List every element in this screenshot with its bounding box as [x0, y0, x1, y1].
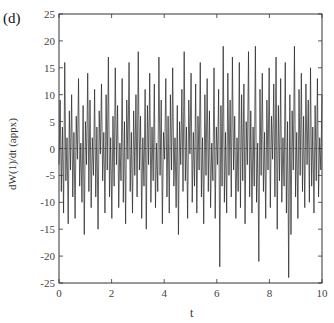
y-tick-label: 5	[50, 116, 56, 128]
y-tick-label: 0	[50, 143, 56, 155]
x-tick-label: 0	[56, 287, 62, 299]
x-tick-label: 4	[161, 287, 167, 299]
y-tick-label: -20	[40, 250, 55, 262]
x-tick-label: 8	[267, 287, 273, 299]
x-tick-label: 10	[317, 287, 329, 299]
y-tick-label: 25	[44, 8, 56, 20]
series-line	[59, 46, 322, 277]
data-series	[59, 46, 322, 277]
x-tick-label: 2	[109, 287, 115, 299]
y-tick-label: 20	[44, 35, 56, 47]
y-tick-label: -5	[46, 169, 56, 181]
y-tick-label: -15	[40, 223, 55, 235]
y-tick-label: 10	[44, 89, 56, 101]
line-chart: 0246810-25-20-15-10-50510152025	[0, 0, 334, 323]
x-tick-label: 6	[214, 287, 220, 299]
y-tick-label: 15	[44, 62, 56, 74]
y-tick-label: -10	[40, 196, 55, 208]
y-tick-label: -25	[40, 277, 55, 289]
